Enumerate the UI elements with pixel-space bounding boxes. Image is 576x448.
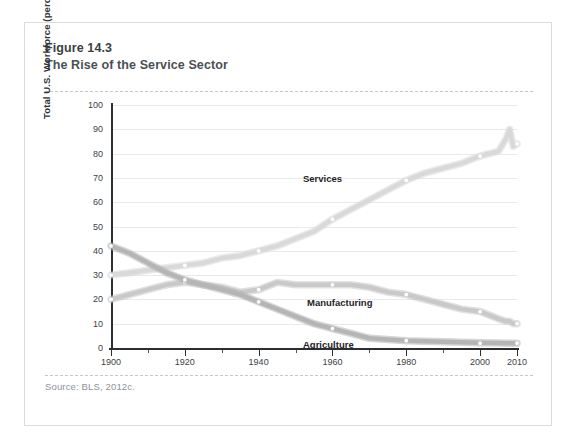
data-point-marker	[331, 327, 335, 331]
data-point-marker	[257, 288, 261, 292]
x-tick-label: 2000	[460, 357, 500, 367]
figure-card: Figure 14.3 The Rise of the Service Sect…	[24, 22, 552, 426]
x-tick-major	[517, 350, 518, 356]
data-point-marker	[478, 341, 482, 345]
x-tick-minor	[369, 350, 370, 353]
data-point-marker	[331, 217, 335, 221]
data-point-marker	[257, 249, 261, 253]
data-point-marker	[404, 293, 408, 297]
series-label-agriculture: Agriculture	[303, 339, 354, 350]
figure-header: Figure 14.3 The Rise of the Service Sect…	[45, 40, 515, 74]
data-point-marker	[109, 298, 113, 302]
series-line-agriculture	[111, 246, 517, 343]
series-label-manufacturing: Manufacturing	[307, 297, 372, 308]
data-point-marker	[515, 341, 519, 345]
series-line-services	[111, 129, 517, 275]
data-point-marker	[478, 154, 482, 158]
data-point-marker	[404, 339, 408, 343]
x-tick-minor	[148, 350, 149, 353]
divider-top	[45, 91, 533, 92]
data-point-marker	[257, 300, 261, 304]
chart-series-svg	[45, 99, 535, 367]
x-tick-major	[332, 350, 333, 356]
figure-title: The Rise of the Service Sector	[45, 57, 515, 74]
chart-plot-area: Total U.S. Workforce (percent) 010203040…	[45, 99, 535, 367]
data-point-marker	[404, 178, 408, 182]
data-point-marker	[515, 142, 519, 146]
x-tick-label: 1900	[91, 357, 131, 367]
data-point-marker	[183, 263, 187, 267]
x-tick-label: 1980	[386, 357, 426, 367]
divider-bottom	[45, 375, 533, 376]
x-tick-label: 1940	[239, 357, 279, 367]
data-point-marker	[515, 322, 519, 326]
series-line-halo-services	[111, 129, 517, 275]
series-label-services: Services	[303, 173, 342, 184]
x-tick-major	[111, 350, 112, 356]
x-tick-minor	[222, 350, 223, 353]
series-line-halo-agriculture	[111, 246, 517, 343]
data-point-marker	[183, 278, 187, 282]
data-point-marker	[109, 244, 113, 248]
x-tick-major	[406, 350, 407, 356]
data-point-marker	[478, 310, 482, 314]
x-tick-major	[185, 350, 186, 356]
x-tick-major	[480, 350, 481, 356]
x-tick-minor	[443, 350, 444, 353]
x-tick-label: 2010	[497, 357, 537, 367]
x-tick-label: 1960	[312, 357, 352, 367]
x-tick-major	[259, 350, 260, 356]
x-tick-minor	[296, 350, 297, 353]
figure-number: Figure 14.3	[45, 40, 515, 57]
data-point-marker	[331, 283, 335, 287]
data-point-marker	[109, 273, 113, 277]
x-tick-label: 1920	[165, 357, 205, 367]
figure-source: Source: BLS, 2012c.	[45, 381, 135, 392]
